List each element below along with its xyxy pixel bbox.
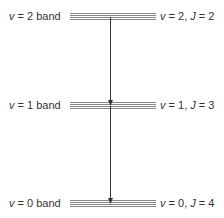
arrow-v1-to-v0: [108, 106, 113, 204]
arrowhead-icon: [108, 198, 113, 204]
transition-arrows: [0, 0, 224, 218]
arrow-v2-to-v1: [108, 17, 113, 106]
arrowhead-icon: [108, 100, 113, 106]
